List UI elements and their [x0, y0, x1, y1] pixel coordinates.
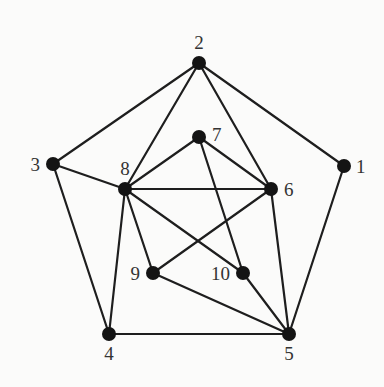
graph-svg: 12345678910: [0, 0, 384, 387]
node-9: [146, 266, 160, 280]
node-6: [264, 182, 278, 196]
edge-8-9: [125, 189, 153, 273]
node-7: [192, 130, 206, 144]
node-label-3: 3: [31, 154, 41, 175]
node-4: [102, 327, 116, 341]
node-label-10: 10: [211, 263, 230, 284]
node-label-6: 6: [284, 179, 294, 200]
edge-6-9: [153, 189, 271, 273]
node-label-8: 8: [120, 158, 130, 179]
nodes: 12345678910: [31, 32, 366, 364]
node-1: [337, 159, 351, 173]
edge-7-6: [199, 137, 271, 189]
edge-4-8: [109, 189, 125, 334]
edges: [53, 63, 344, 334]
edge-8-10: [125, 189, 243, 273]
node-label-9: 9: [131, 263, 141, 284]
node-label-7: 7: [212, 124, 222, 145]
node-label-1: 1: [356, 156, 366, 177]
node-2: [192, 56, 206, 70]
node-3: [46, 157, 60, 171]
edge-2-1: [199, 63, 344, 166]
edge-3-8: [53, 164, 125, 189]
edge-2-8: [125, 63, 199, 189]
node-label-2: 2: [194, 32, 204, 53]
edge-3-4: [53, 164, 109, 334]
edge-1-5: [289, 166, 344, 334]
node-8: [118, 182, 132, 196]
node-10: [236, 266, 250, 280]
edge-7-10: [199, 137, 243, 273]
node-label-4: 4: [104, 343, 114, 364]
graph-diagram: 12345678910: [0, 0, 384, 387]
edge-2-3: [53, 63, 199, 164]
node-label-5: 5: [284, 343, 294, 364]
edge-8-7: [125, 137, 199, 189]
node-5: [282, 327, 296, 341]
